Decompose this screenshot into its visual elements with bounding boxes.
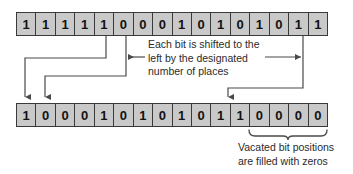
source-bit-row: 1 1 1 1 1 0 0 0 1 0 1 0 1 0 1 1 bbox=[16, 12, 328, 36]
shift-arrow-outer bbox=[25, 36, 106, 97]
bit-cell: 0 bbox=[270, 13, 289, 35]
bit-cell: 1 bbox=[173, 13, 192, 35]
bit-cell: 0 bbox=[75, 104, 94, 126]
shift-arrow-inner bbox=[45, 36, 126, 97]
bit-cell: 1 bbox=[17, 13, 36, 35]
bit-cell: 1 bbox=[17, 104, 36, 126]
bit-cell: 0 bbox=[153, 104, 172, 126]
bit-cell: 1 bbox=[134, 104, 153, 126]
vacated-bits-caption: Vacated bit positions are filled with ze… bbox=[238, 141, 350, 168]
bit-cell: 0 bbox=[309, 104, 327, 126]
bit-cell: 0 bbox=[192, 13, 211, 35]
bit-cell: 1 bbox=[36, 13, 55, 35]
vacated-bits-brace bbox=[249, 130, 327, 140]
bit-cell: 1 bbox=[173, 104, 192, 126]
bit-cell: 0 bbox=[114, 104, 133, 126]
bit-cell: 0 bbox=[270, 104, 289, 126]
bit-cell: 0 bbox=[153, 13, 172, 35]
bit-cell: 1 bbox=[309, 13, 327, 35]
result-bit-row: 1 0 0 0 1 0 1 0 1 0 1 1 0 0 0 0 bbox=[16, 103, 328, 127]
bit-cell: 1 bbox=[56, 13, 75, 35]
bit-cell: 0 bbox=[134, 13, 153, 35]
bit-cell: 1 bbox=[289, 13, 308, 35]
bit-cell: 1 bbox=[95, 104, 114, 126]
bit-cell: 0 bbox=[114, 13, 133, 35]
bit-cell: 1 bbox=[231, 104, 250, 126]
shift-description-caption: Each bit is shifted to the left by the d… bbox=[148, 38, 300, 79]
bit-cell: 0 bbox=[56, 104, 75, 126]
bit-cell: 1 bbox=[211, 13, 230, 35]
shift-diagram: 1 1 1 1 1 0 0 0 1 0 1 0 1 0 1 1 1 0 0 0 … bbox=[0, 0, 353, 174]
bit-cell: 1 bbox=[250, 13, 269, 35]
bit-cell: 0 bbox=[192, 104, 211, 126]
bit-cell: 0 bbox=[289, 104, 308, 126]
bit-cell: 1 bbox=[75, 13, 94, 35]
bit-cell: 0 bbox=[36, 104, 55, 126]
bit-cell: 0 bbox=[231, 13, 250, 35]
bit-cell: 1 bbox=[95, 13, 114, 35]
bit-cell: 1 bbox=[211, 104, 230, 126]
bit-cell: 0 bbox=[250, 104, 269, 126]
